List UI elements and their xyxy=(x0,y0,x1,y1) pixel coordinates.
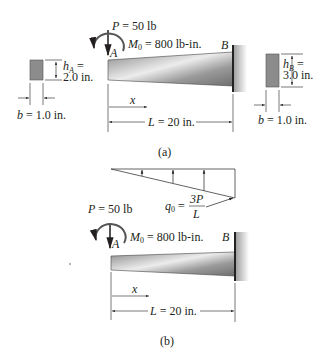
caption-b: (b) xyxy=(160,334,174,348)
svg-text:M0 = 800 lb-in.: M0 = 800 lb-in. xyxy=(127,37,201,52)
cross-section-b: hB = 3.0 in. b = 1.0 in. xyxy=(254,54,313,127)
caption-a: (a) xyxy=(158,145,171,159)
figure-a: hA = 2.0 in. b = 1.0 in. P = 50 lb M0 = … xyxy=(17,19,313,159)
cross-section-a: hA = 2.0 in. b = 1.0 in. xyxy=(17,59,93,122)
fixed-support-wall xyxy=(233,45,247,92)
q0-numerator: 3P xyxy=(189,192,204,206)
svg-text:P = 50 lb: P = 50 lb xyxy=(111,19,156,33)
x-label-a: x xyxy=(129,93,136,107)
tapered-beam-b xyxy=(111,252,235,276)
h-b-value: 3.0 in. xyxy=(283,68,313,82)
svg-text:P = 50 lb: P = 50 lb xyxy=(87,202,132,216)
svg-text:q0 =: q0 = xyxy=(165,199,185,214)
point-b-label: B xyxy=(221,38,229,52)
point-b-label-b: B xyxy=(222,230,230,244)
length-label-b: L = 20 in. xyxy=(149,304,197,318)
h-a-value: 2.0 in. xyxy=(63,70,93,84)
x-label-b: x xyxy=(131,282,138,296)
length-label-a: L = 20 in. xyxy=(147,115,195,129)
tapered-beam xyxy=(108,52,233,86)
svg-text:M0 = 800 lb-in.: M0 = 800 lb-in. xyxy=(129,230,203,245)
svg-text:b = 1.0 in.: b = 1.0 in. xyxy=(17,108,66,122)
point-a-label-b: A xyxy=(111,237,120,251)
q0-denominator: L xyxy=(192,207,200,221)
figure-b: q0 = 3P L P = 50 lb M0 = 800 lb-in. A B … xyxy=(69,169,249,348)
svg-text:b = 1.0 in.: b = 1.0 in. xyxy=(258,113,307,127)
point-a-label: A xyxy=(109,46,118,60)
beam-diagram: hA = 2.0 in. b = 1.0 in. P = 50 lb M0 = … xyxy=(0,0,334,361)
fixed-support-wall-b xyxy=(235,232,249,281)
